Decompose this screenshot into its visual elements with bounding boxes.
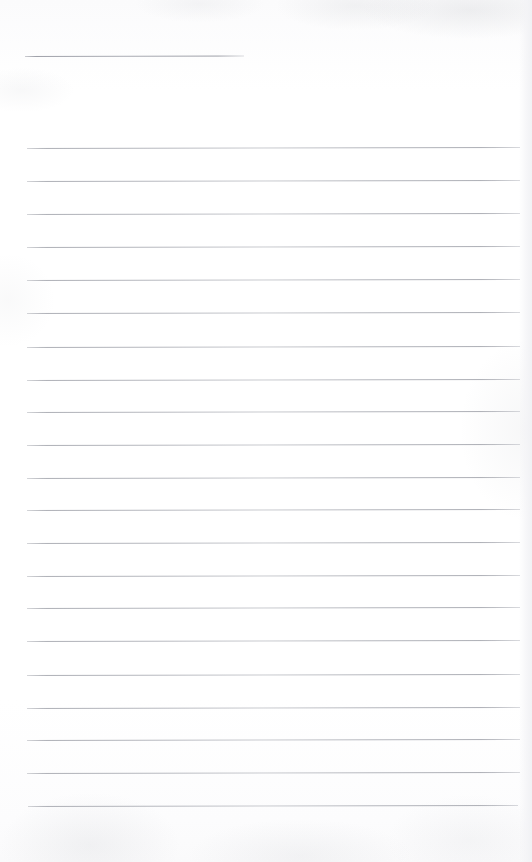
- paper-background: [0, 0, 532, 862]
- scanned-page: [0, 0, 532, 862]
